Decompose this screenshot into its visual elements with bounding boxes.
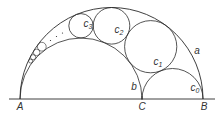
label-text: A [17, 101, 24, 112]
label-c0: c0 [191, 83, 200, 94]
diagram-canvas [0, 0, 224, 121]
label-c3: c3 [84, 19, 93, 30]
pappus-chain-diagram: ACBabc0c1c2c3 [0, 0, 224, 121]
label-text: b [131, 81, 137, 92]
label-B: B [201, 102, 208, 112]
label-subscript: 3 [89, 23, 93, 30]
arc-a-large-semicircle [20, 8, 203, 100]
chain-circle-c9 [29, 59, 33, 63]
label-subscript: 1 [159, 61, 163, 68]
chain-circle-c1 [125, 21, 177, 73]
label-text: a [194, 45, 200, 56]
ellipsis-dot [56, 36, 57, 37]
label-a: a [194, 46, 200, 56]
label-c1: c1 [154, 57, 163, 68]
label-text: C [138, 101, 145, 112]
arc-b-semicircle-ac [20, 38, 142, 99]
label-A: A [17, 102, 24, 112]
ellipsis-dot [62, 32, 63, 33]
ellipsis-dots [50, 32, 63, 41]
label-text: B [201, 101, 208, 112]
label-subscript: 2 [120, 29, 124, 36]
label-subscript: 0 [196, 87, 200, 94]
label-c2: c2 [115, 25, 124, 36]
ellipsis-dot [50, 40, 51, 41]
label-b: b [131, 82, 137, 92]
label-C: C [138, 102, 145, 112]
chain-circle-c2 [93, 8, 130, 45]
